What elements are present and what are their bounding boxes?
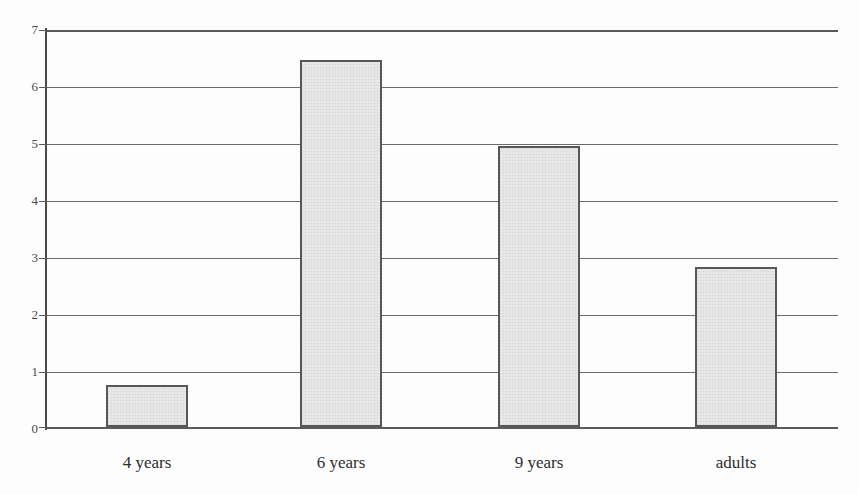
x-label-adults: adults <box>676 452 796 474</box>
bar-6-years <box>300 60 382 428</box>
y-tick-label-4: 4 <box>16 194 38 207</box>
y-tick-label-2: 2 <box>16 308 38 321</box>
y-tick-mark-1 <box>39 372 48 373</box>
bar-chart-figure: 7 6 5 4 3 2 1 0 4 year <box>0 0 859 495</box>
y-tick-mark-0 <box>39 427 48 428</box>
x-axis-category-labels: 4 years 6 years 9 years adults <box>46 452 838 482</box>
gridline-5 <box>46 144 838 145</box>
y-tick-label-3: 3 <box>16 251 38 264</box>
gridline-4 <box>46 201 838 202</box>
y-tick-label-7: 7 <box>16 23 38 36</box>
y-tick-mark-6 <box>39 87 48 88</box>
y-tick-label-1: 1 <box>16 365 38 378</box>
y-tick-mark-3 <box>39 258 48 259</box>
y-tick-label-6: 6 <box>16 80 38 93</box>
y-axis-tick-labels: 7 6 5 4 3 2 1 0 <box>14 30 38 428</box>
y-tick-mark-5 <box>39 144 48 145</box>
gridline-6 <box>46 87 838 88</box>
y-tick-mark-2 <box>39 315 48 316</box>
bar-4-years <box>106 385 188 428</box>
x-label-6-years: 6 years <box>281 452 401 474</box>
plot-area <box>46 30 838 428</box>
bar-adults <box>695 267 777 427</box>
gridline-7 <box>46 30 838 32</box>
y-tick-label-0: 0 <box>16 422 38 435</box>
x-label-4-years: 4 years <box>87 452 207 474</box>
bar-9-years <box>498 146 580 427</box>
y-tick-mark-7 <box>39 30 48 31</box>
gridline-0-baseline <box>46 427 838 429</box>
x-label-9-years: 9 years <box>479 452 599 474</box>
gridline-3 <box>46 258 838 259</box>
y-tick-mark-4 <box>39 201 48 202</box>
y-tick-label-5: 5 <box>16 137 38 150</box>
